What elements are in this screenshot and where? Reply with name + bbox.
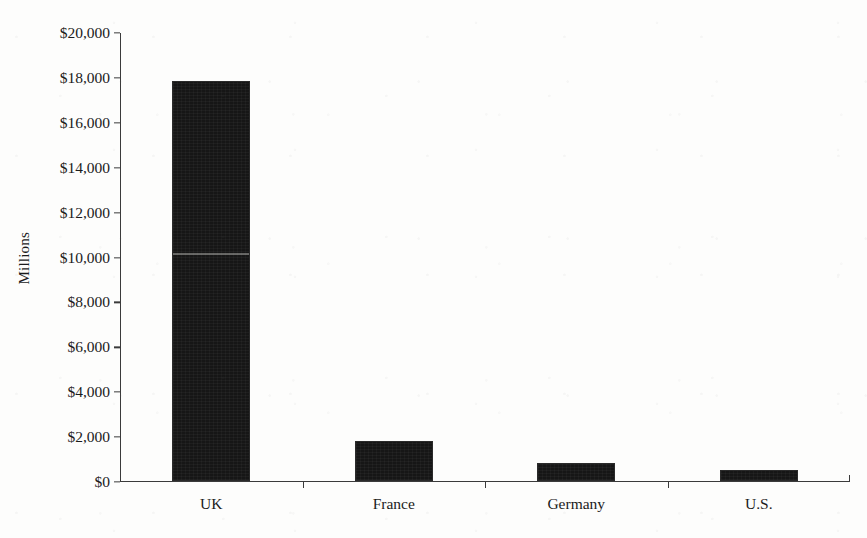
x-axis-end-cap	[849, 475, 850, 482]
y-axis-tick-label: $4,000	[24, 384, 110, 400]
x-axis-category-label: UK	[200, 495, 222, 513]
x-axis-category-label: Germany	[547, 495, 605, 513]
y-axis-tick-mark	[114, 392, 120, 393]
bar-germany	[537, 463, 615, 481]
y-axis-tick-mark	[114, 167, 120, 168]
scan-artifact-line	[173, 253, 249, 255]
bar-chart-figure: Millions $0$2,000$4,000$6,000$8,000$10,0…	[0, 0, 867, 538]
y-axis-tick-mark	[114, 302, 120, 303]
y-axis-tick-mark	[114, 436, 120, 437]
y-axis-tick-label: $14,000	[24, 160, 110, 176]
y-axis-tick-mark	[114, 32, 120, 33]
y-axis-line	[120, 33, 121, 482]
x-axis-category-label: France	[373, 495, 415, 513]
bar-u-s	[720, 470, 798, 481]
bar-france	[355, 441, 433, 481]
y-axis-tick-mark	[114, 212, 120, 213]
plot-area	[120, 33, 850, 482]
x-axis-tick-mark	[485, 482, 486, 488]
y-axis-tick-mark	[114, 347, 120, 348]
y-axis-tick-label: $2,000	[24, 429, 110, 445]
y-axis-tick-label: $20,000	[24, 25, 110, 41]
y-axis-tick-mark	[114, 77, 120, 78]
y-axis-tick-label: $18,000	[24, 70, 110, 86]
y-axis-tick-label: $10,000	[24, 250, 110, 266]
bar-uk	[172, 81, 250, 481]
x-axis-category-label: U.S.	[745, 495, 773, 513]
y-axis-tick-mark	[114, 122, 120, 123]
y-axis-tick-label: $6,000	[24, 340, 110, 356]
y-axis-tick-mark	[114, 481, 120, 482]
y-axis-tick-mark	[114, 257, 120, 258]
y-axis-tick-label: $16,000	[24, 115, 110, 131]
y-axis-tick-labels: $0$2,000$4,000$6,000$8,000$10,000$12,000…	[24, 0, 110, 538]
x-axis-tick-mark	[668, 482, 669, 488]
y-axis-tick-label: $12,000	[24, 205, 110, 221]
y-axis-tick-label: $8,000	[24, 295, 110, 311]
x-axis-tick-mark	[303, 482, 304, 488]
y-axis-tick-label: $0	[24, 474, 110, 490]
